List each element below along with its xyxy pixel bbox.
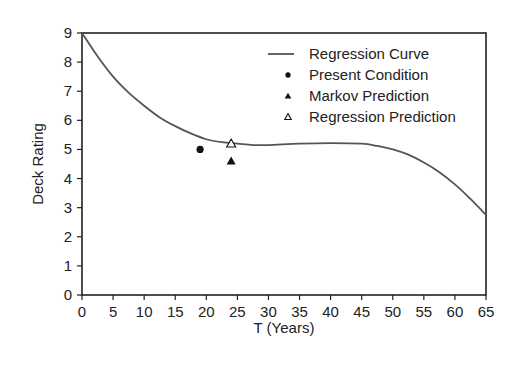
x-axis-title: T (Years) (254, 319, 315, 336)
legend-label: Regression Prediction (309, 108, 456, 125)
y-tick-label: 0 (64, 286, 72, 303)
legend-item: Markov Prediction (285, 87, 429, 104)
x-tick-label: 0 (78, 303, 86, 320)
y-tick-label: 7 (64, 82, 72, 99)
x-tick-label: 30 (260, 303, 277, 320)
x-tick-label: 50 (384, 303, 401, 320)
x-tick-label: 45 (353, 303, 370, 320)
y-tick-label: 6 (64, 111, 72, 128)
legend-item: Present Condition (285, 66, 428, 83)
x-tick-label: 5 (109, 303, 117, 320)
x-tick-label: 60 (447, 303, 464, 320)
legend-label: Present Condition (309, 66, 428, 83)
y-tick-label: 2 (64, 228, 72, 245)
y-tick-label: 8 (64, 53, 72, 70)
y-tick-label: 4 (64, 170, 72, 187)
y-tick-label: 1 (64, 257, 72, 274)
legend-item: Regression Prediction (285, 108, 456, 125)
legend-label: Regression Curve (309, 45, 429, 62)
x-tick-label: 15 (167, 303, 184, 320)
legend-item: Regression Curve (268, 45, 429, 62)
y-tick-label: 9 (64, 24, 72, 41)
x-tick-label: 20 (198, 303, 215, 320)
legend-label: Markov Prediction (309, 87, 429, 104)
x-tick-label: 40 (322, 303, 339, 320)
x-tick-label: 10 (136, 303, 153, 320)
present-condition-marker (196, 146, 203, 153)
legend-open-triangle-icon (285, 114, 292, 120)
legend-filled-circle-icon (285, 72, 290, 77)
x-tick-label: 25 (229, 303, 246, 320)
y-axis-title: Deck Rating (29, 123, 46, 205)
y-tick-label: 5 (64, 140, 72, 157)
y-axis-ticks: 0123456789 (64, 24, 82, 303)
x-axis-ticks: 05101520253035404550556065 (78, 295, 495, 320)
legend: Regression CurvePresent ConditionMarkov … (268, 45, 456, 125)
markov-prediction-marker (227, 157, 236, 165)
legend-filled-triangle-icon (285, 93, 292, 99)
x-tick-label: 35 (291, 303, 308, 320)
x-tick-label: 65 (478, 303, 495, 320)
deck-rating-chart: 05101520253035404550556065 0123456789 Re… (0, 0, 520, 375)
x-tick-label: 55 (416, 303, 433, 320)
y-tick-label: 3 (64, 199, 72, 216)
